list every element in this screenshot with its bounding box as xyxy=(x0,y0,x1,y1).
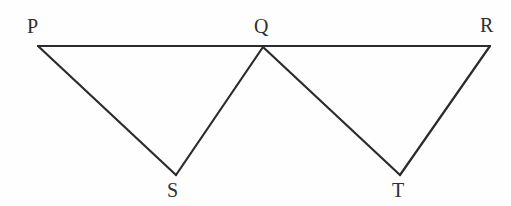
segment-group xyxy=(38,46,490,175)
segment-TR xyxy=(400,46,490,175)
vertex-label-Q: Q xyxy=(254,16,268,36)
segment-PS xyxy=(38,46,176,175)
segment-QT xyxy=(263,47,400,175)
geometry-figure: P Q R S T xyxy=(0,0,511,206)
segment-SQ xyxy=(176,47,263,175)
vertex-label-S: S xyxy=(167,180,178,200)
vertex-label-R: R xyxy=(480,15,493,35)
vertex-label-P: P xyxy=(27,16,38,36)
vertex-label-T: T xyxy=(392,180,404,200)
